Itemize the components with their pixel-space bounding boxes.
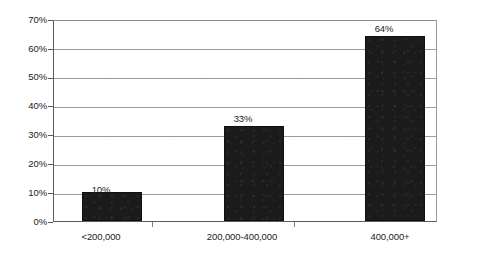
y-axis-tick-label: 40% bbox=[5, 101, 47, 111]
x-axis-tick-mark bbox=[294, 222, 295, 227]
y-axis-tick-label: 70% bbox=[5, 15, 47, 25]
data-label-category-0: 10% bbox=[61, 184, 141, 195]
y-axis-tick-label: 30% bbox=[5, 130, 47, 140]
x-axis-tick-label-0: <200,000 bbox=[51, 231, 151, 242]
y-axis-tick-mark bbox=[48, 222, 53, 223]
x-axis-tick-label-2: 400,000+ bbox=[335, 231, 445, 242]
data-label-category-1: 33% bbox=[203, 113, 283, 124]
y-axis-tick-label: 10% bbox=[5, 188, 47, 198]
y-axis-tick-label: 50% bbox=[5, 72, 47, 82]
bar-category-2 bbox=[365, 36, 425, 221]
data-label-category-2: 64% bbox=[344, 23, 424, 34]
y-axis-tick-label: 20% bbox=[5, 159, 47, 169]
bar-category-0 bbox=[82, 192, 142, 221]
x-axis-tick-label-1: 200,000-400,000 bbox=[172, 231, 312, 242]
bar-chart: 70% 60% 50% 40% 30% 20% 10% 0% 10% 33% 6… bbox=[0, 0, 480, 258]
x-axis-tick-mark bbox=[152, 222, 153, 227]
y-axis-tick-label: 60% bbox=[5, 44, 47, 54]
bar-category-1 bbox=[224, 126, 284, 221]
y-axis-tick-label: 0% bbox=[5, 217, 47, 227]
